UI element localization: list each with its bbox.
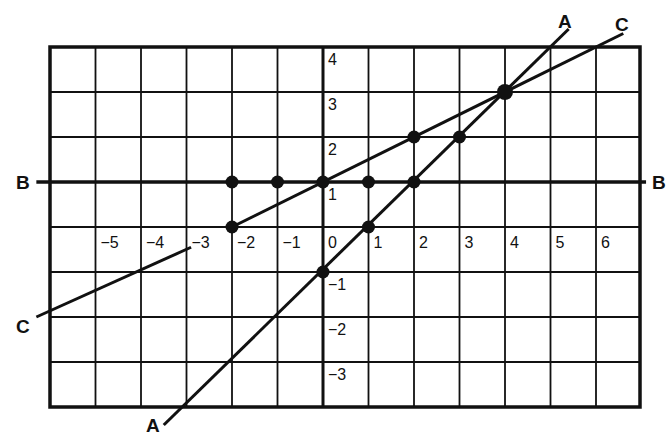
data-point bbox=[408, 131, 421, 144]
data-point bbox=[271, 176, 284, 189]
line-a-label-top: A bbox=[558, 11, 572, 32]
axis-ticks: −5−4−3−2−101234564321−1−2−3 bbox=[101, 51, 611, 383]
x-tick-label: −4 bbox=[146, 234, 164, 251]
y-tick-label: −2 bbox=[328, 321, 346, 338]
y-tick-label: 2 bbox=[328, 141, 337, 158]
data-point bbox=[408, 176, 421, 189]
y-tick-label: 3 bbox=[328, 96, 337, 113]
data-point bbox=[226, 176, 239, 189]
x-tick-label: 0 bbox=[328, 234, 337, 251]
x-tick-label: −3 bbox=[192, 234, 210, 251]
x-tick-label: −5 bbox=[101, 234, 119, 251]
data-point bbox=[497, 84, 513, 100]
y-tick-label: −3 bbox=[328, 366, 346, 383]
line-c-label-bottom: C bbox=[16, 316, 30, 337]
x-tick-label: −1 bbox=[283, 234, 301, 251]
line-c-segment bbox=[36, 247, 191, 317]
data-point bbox=[362, 176, 375, 189]
coordinate-graph: −5−4−3−2−101234564321−1−2−3 A A B B C C bbox=[0, 0, 670, 444]
x-tick-label: 6 bbox=[601, 234, 610, 251]
line-c-label-top: C bbox=[615, 14, 629, 35]
x-tick-label: 4 bbox=[510, 234, 519, 251]
data-point bbox=[317, 176, 330, 189]
y-tick-label: 1 bbox=[328, 186, 337, 203]
x-tick-label: 1 bbox=[374, 234, 383, 251]
data-point bbox=[226, 221, 239, 234]
data-point bbox=[453, 131, 466, 144]
x-tick-label: 3 bbox=[465, 234, 474, 251]
data-point bbox=[362, 221, 375, 234]
y-tick-label: −1 bbox=[328, 276, 346, 293]
data-point bbox=[317, 266, 330, 279]
line-a-label-bottom: A bbox=[146, 415, 160, 436]
y-tick-label: 4 bbox=[328, 51, 337, 68]
x-tick-label: 5 bbox=[556, 234, 565, 251]
x-tick-label: 2 bbox=[419, 234, 428, 251]
line-c-segment bbox=[232, 34, 623, 228]
line-b-label-left: B bbox=[16, 172, 30, 193]
grid bbox=[50, 47, 640, 407]
x-tick-label: −2 bbox=[237, 234, 255, 251]
line-b-label-right: B bbox=[652, 172, 666, 193]
